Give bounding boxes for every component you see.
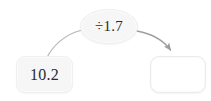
- connector-input-to-operator: [47, 31, 81, 59]
- operation-label: ÷1.7: [95, 19, 123, 34]
- connector-operator-to-output: [137, 31, 171, 50]
- function-machine-diagram: 10.2 ÷1.7: [0, 0, 211, 101]
- input-value-label: 10.2: [30, 67, 59, 83]
- operation-ellipse: ÷1.7: [80, 9, 138, 44]
- output-answer-box[interactable]: [150, 56, 206, 93]
- input-value-box[interactable]: 10.2: [16, 56, 73, 93]
